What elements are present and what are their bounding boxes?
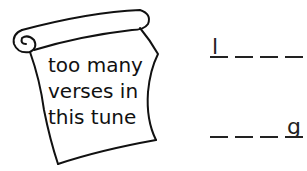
answer-row-1: l	[210, 30, 303, 58]
scroll-line: too many	[48, 52, 158, 78]
letter-blank[interactable]	[260, 110, 278, 138]
letter-blank[interactable]: g	[285, 110, 303, 138]
scroll-text: too many verses in this tune	[48, 52, 158, 130]
letter-blank[interactable]	[210, 110, 228, 138]
letter-blank[interactable]	[260, 30, 278, 58]
letter-blank[interactable]	[285, 30, 303, 58]
scroll-line: verses in	[48, 78, 158, 104]
letter-blank[interactable]	[235, 30, 253, 58]
letter-blank[interactable]: l	[210, 30, 228, 58]
letter-blank[interactable]	[235, 110, 253, 138]
scroll-line: this tune	[48, 104, 158, 130]
scroll-illustration: too many verses in this tune	[0, 0, 160, 171]
answer-row-2: g	[210, 110, 303, 138]
